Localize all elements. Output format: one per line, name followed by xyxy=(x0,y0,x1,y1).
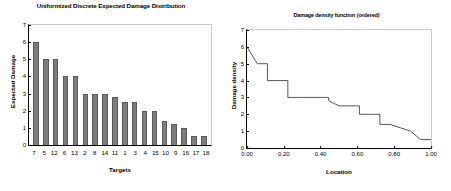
bar xyxy=(43,59,48,145)
bar-chart-x-tick-label: 18 xyxy=(202,145,209,156)
bar-chart-title: Uniformized Discrete Expected Damage Dis… xyxy=(0,2,222,9)
bar-chart-y-tick-label: 3 xyxy=(23,91,29,97)
bar xyxy=(122,102,127,145)
bar xyxy=(152,111,157,145)
bar-chart-y-axis-title: Expected Damage xyxy=(9,52,16,112)
bar-chart-x-tick-label: 3 xyxy=(133,145,136,156)
line-chart-y-tick-label: 5 xyxy=(241,61,247,67)
bar xyxy=(102,94,107,145)
bar-chart-x-tick-label: 16 xyxy=(182,145,189,156)
figure-container: Uniformized Discrete Expected Damage Dis… xyxy=(0,0,451,191)
bar-chart-x-tick-label: 9 xyxy=(174,145,177,156)
bar-chart-y-tick-label: 7 xyxy=(23,22,29,28)
bar xyxy=(181,128,186,145)
bar xyxy=(171,124,176,145)
line-chart-x-tick-label: 0.00 xyxy=(241,148,253,157)
bar-chart-x-tick-label: 7 xyxy=(32,145,35,156)
line-chart-x-tick-label: 0.20 xyxy=(278,148,290,157)
bar xyxy=(33,42,38,145)
bar-chart-x-tick-label: 2 xyxy=(83,145,86,156)
bar-chart-x-tick-label: 17 xyxy=(192,145,199,156)
line-chart-x-tick-label: 0.80 xyxy=(388,148,400,157)
line-chart-y-tick-label: 3 xyxy=(241,94,247,100)
line-chart-y-tick-label: 4 xyxy=(241,78,247,84)
bar xyxy=(73,76,78,145)
line-chart-x-tick-label: 0.40 xyxy=(315,148,327,157)
bar-chart-y-tick-label: 5 xyxy=(23,56,29,62)
bar-chart-x-tick-label: 4 xyxy=(144,145,147,156)
line-chart-plot-area: 012345670.000.200.400.600.801.00 xyxy=(246,29,432,149)
line-chart-y-tick-label: 1 xyxy=(241,128,247,134)
bar-series xyxy=(29,25,211,145)
bar-chart-x-tick-label: 5 xyxy=(42,145,45,156)
bar-chart-x-tick-label: 13 xyxy=(71,145,78,156)
line-chart-x-tick-label: 1.00 xyxy=(425,148,437,157)
bar-chart-y-tick-label: 4 xyxy=(23,73,29,79)
bar-chart-panel: Uniformized Discrete Expected Damage Dis… xyxy=(0,0,222,191)
line-chart-title: Damage density function (ordered) xyxy=(222,12,451,18)
bar-chart-x-tick-label: 10 xyxy=(162,145,169,156)
bar xyxy=(53,59,58,145)
bar-chart-plot-area: 75126132814111341510916171801234567 xyxy=(28,24,212,146)
line-chart-x-tick-label: 0.60 xyxy=(352,148,364,157)
bar xyxy=(92,94,97,145)
bar-chart-x-tick-label: 11 xyxy=(112,145,118,156)
line-chart-y-tick-label: 2 xyxy=(241,111,247,117)
bar xyxy=(132,102,137,145)
bar-chart-x-tick-label: 1 xyxy=(123,145,126,156)
line-chart-y-axis-title: Damage density xyxy=(230,56,237,116)
bar-chart-y-tick-label: 6 xyxy=(23,39,29,45)
bar xyxy=(201,136,206,145)
bar xyxy=(191,136,196,145)
bar-chart-y-tick-label: 0 xyxy=(23,142,29,148)
bar-chart-x-tick-label: 14 xyxy=(101,145,108,156)
bar xyxy=(83,94,88,145)
bar-chart-y-tick-label: 1 xyxy=(23,125,29,131)
line-chart-y-tick-label: 6 xyxy=(241,44,247,50)
bar-chart-x-axis-title: Targets xyxy=(28,166,212,173)
bar xyxy=(112,97,117,145)
bar xyxy=(63,76,68,145)
damage-density-line xyxy=(247,30,431,148)
bar-chart-x-tick-label: 12 xyxy=(51,145,58,156)
line-chart-y-tick-label: 7 xyxy=(241,27,247,33)
bar xyxy=(142,111,147,145)
bar-chart-x-tick-label: 15 xyxy=(152,145,159,156)
bar-chart-x-tick-label: 8 xyxy=(93,145,96,156)
line-chart-x-axis-title: Location xyxy=(246,168,432,175)
bar xyxy=(162,121,167,145)
bar-chart-y-tick-label: 2 xyxy=(23,108,29,114)
bar-chart-x-tick-label: 6 xyxy=(63,145,66,156)
